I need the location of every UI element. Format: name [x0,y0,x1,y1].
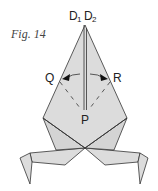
label-q: Q [45,71,54,85]
label-d1-subscript: 1 [77,15,82,24]
figure-caption: Fig. 14 [10,27,46,41]
right-leg [85,148,148,184]
left-leg [20,148,85,184]
origami-diagram: Fig. 14 D 1 D 2 Q R P [0,0,158,191]
label-d2-subscript: 2 [92,15,97,24]
label-p: P [81,113,89,127]
label-r: R [113,71,122,85]
